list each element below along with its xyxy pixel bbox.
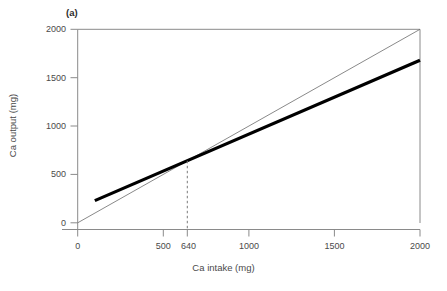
xtick-label-1500: 1500 bbox=[324, 241, 344, 251]
ytick-label-0: 0 bbox=[30, 218, 66, 228]
plot-area bbox=[0, 0, 447, 291]
xtick-label-1000: 1000 bbox=[239, 241, 259, 251]
ytick-label-1000: 1000 bbox=[30, 121, 66, 131]
y-axis-title: Ca output (mg) bbox=[7, 66, 18, 186]
series-line-of-identity bbox=[78, 29, 420, 223]
ytick-label-1500: 1500 bbox=[30, 73, 66, 83]
ytick-label-2000: 2000 bbox=[30, 24, 66, 34]
figure-panel: (a) 2000 1500 1000 500 0 0 500 640 1000 bbox=[0, 0, 447, 291]
x-axis-title: Ca intake (mg) bbox=[0, 262, 447, 273]
series-regression-line bbox=[95, 60, 420, 200]
xtick-label-640: 640 bbox=[181, 241, 196, 251]
ytick-label-500: 500 bbox=[30, 169, 66, 179]
xtick-label-2000: 2000 bbox=[410, 241, 430, 251]
xtick-label-0: 0 bbox=[75, 241, 80, 251]
xtick-label-500: 500 bbox=[156, 241, 171, 251]
